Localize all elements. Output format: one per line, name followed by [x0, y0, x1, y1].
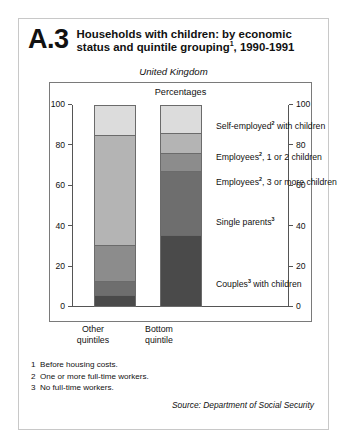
- bar-segment: [95, 246, 135, 282]
- y-tick-right-20: [289, 266, 293, 267]
- bar-segment: [161, 154, 201, 172]
- footnotes-list: 1Before housing costs. 2One or more full…: [31, 359, 328, 394]
- y-tick-right-100: [289, 104, 293, 105]
- bar-other-quintiles: [94, 105, 136, 307]
- footnote-1: 1Before housing costs.: [31, 359, 328, 371]
- figure-subtitle: United Kingdom: [19, 66, 328, 77]
- y-tick-left-0: [68, 306, 72, 307]
- page-title: Households with children: by economic st…: [77, 27, 295, 55]
- chart-plot-area: Percentages 0 20 40 60 80 100 0: [49, 82, 312, 322]
- y-label-left-60: 60: [55, 181, 65, 190]
- y-label-right-80: 80: [296, 141, 306, 150]
- bar-bottom-quintile: [160, 105, 202, 307]
- y-tick-left-100: [68, 104, 72, 105]
- y-axis-left: [72, 105, 73, 307]
- source-line: Source: Department of Social Security: [19, 400, 314, 410]
- figure-panel: A.3 Households with children: by economi…: [18, 18, 329, 430]
- bar-segment: [95, 106, 135, 136]
- x-label-bottom-quintile: Bottomquintile: [126, 324, 192, 345]
- y-tick-left-20: [68, 266, 72, 267]
- y-tick-right-60: [289, 185, 293, 186]
- y-tick-right-40: [289, 225, 293, 226]
- figure-header: A.3 Households with children: by economi…: [19, 19, 328, 55]
- y-label-right-60: 60: [296, 181, 306, 190]
- bar-segment: [95, 282, 135, 296]
- bar-segment: [95, 296, 135, 306]
- bar-segment: [161, 106, 201, 134]
- chart-inner: 0 20 40 60 80 100 0 20 40 60 80 100 Self…: [50, 105, 311, 307]
- footnote-3: 3No full-time workers.: [31, 382, 328, 394]
- x-axis-labels: Otherquintiles Bottomquintile: [49, 324, 312, 350]
- y-label-left-80: 80: [55, 141, 65, 150]
- legend-item-single-parents: Single parents3: [216, 218, 275, 228]
- y-tick-right-80: [289, 144, 293, 145]
- y-label-right-20: 20: [296, 262, 306, 271]
- figure-number: A.3: [28, 27, 69, 53]
- x-label-other-quintiles: Otherquintiles: [60, 324, 126, 345]
- y-axis-right: [288, 105, 289, 307]
- bar-segment: [95, 136, 135, 246]
- y-tick-left-80: [68, 144, 72, 145]
- legend-item-self-employed: Self-employed2 with children: [216, 122, 325, 132]
- bar-segment: [161, 134, 201, 154]
- y-label-right-0: 0: [296, 302, 301, 311]
- figure-title-line2-tail: , 1990-1991: [234, 41, 295, 53]
- y-label-left-40: 40: [55, 222, 65, 231]
- y-label-right-40: 40: [296, 222, 306, 231]
- y-label-left-100: 100: [51, 100, 65, 109]
- bar-segment: [161, 236, 201, 306]
- chart-legend: Self-employed2 with children Employees2,…: [216, 105, 309, 307]
- figure-title-line2: status and quintile grouping: [77, 41, 230, 53]
- legend-item-employees-3-plus: Employees2, 3 or more children: [216, 178, 337, 188]
- chart-unit-label: Percentages: [50, 87, 311, 97]
- footnote-2: 2One or more full-time workers.: [31, 371, 328, 383]
- y-label-left-0: 0: [60, 302, 65, 311]
- y-tick-left-40: [68, 225, 72, 226]
- figure-title-line1: Households with children: by economic: [77, 28, 292, 40]
- y-tick-right-0: [289, 306, 293, 307]
- y-label-left-20: 20: [55, 262, 65, 271]
- bar-segment: [161, 172, 201, 236]
- legend-item-employees-1-2: Employees2, 1 or 2 children: [216, 153, 322, 163]
- y-label-right-100: 100: [296, 100, 310, 109]
- y-tick-left-60: [68, 185, 72, 186]
